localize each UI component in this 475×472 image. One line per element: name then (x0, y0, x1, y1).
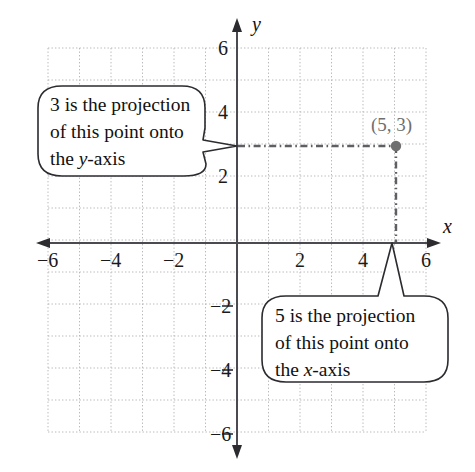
x-tick-label-pos2: 2 (295, 250, 305, 270)
y-callout-line3-post: -axis (87, 148, 125, 169)
y-tick-label-pos6: 6 (218, 38, 228, 58)
y-projection-callout-line3: the y-axis (50, 146, 125, 172)
x-tick-label-neg2: −2 (163, 250, 184, 270)
y-callout-line3-pre: the (50, 148, 79, 169)
plot-canvas (0, 0, 475, 472)
x-axis (36, 238, 441, 248)
x-projection-callout-line1: 5 is the projection (275, 303, 415, 329)
x-projection-callout-line3: the x-axis (275, 357, 350, 383)
y-tick-label-neg6: −6 (210, 424, 231, 444)
x-tick-label-neg4: −4 (100, 250, 121, 270)
y-axis (232, 18, 242, 459)
y-axis-label: y (252, 14, 261, 34)
y-tick-label-pos4: 4 (218, 102, 228, 122)
coordinate-plane-figure: y x −6 −4 −2 2 4 6 6 4 2 −2 −4 −6 (5, 3)… (0, 0, 475, 472)
y-axis-bottom-arrowhead (232, 445, 242, 459)
y-tick-label-neg4: −4 (210, 360, 231, 380)
projection-guides (238, 146, 396, 242)
x-tick-label-pos6: 6 (421, 250, 431, 270)
x-axis-label: x (443, 216, 452, 236)
x-axis-right-arrowhead (427, 238, 441, 248)
point-label-5-3: (5, 3) (371, 115, 412, 134)
x-tick-label-pos4: 4 (358, 250, 368, 270)
y-tick-label-neg2: −2 (210, 296, 231, 316)
x-axis-left-arrowhead (36, 238, 50, 248)
x-callout-line3-post: -axis (312, 359, 350, 380)
data-point-5-3 (391, 141, 401, 151)
y-axis-top-arrowhead (232, 18, 242, 32)
x-projection-callout-line2: of this point onto (275, 330, 409, 356)
y-projection-callout-line1: 3 is the projection (50, 92, 190, 118)
y-tick-label-pos2: 2 (218, 166, 228, 186)
y-projection-callout-line2: of this point onto (50, 119, 184, 145)
x-tick-label-neg6: −6 (37, 250, 58, 270)
x-callout-line3-pre: the (275, 359, 304, 380)
